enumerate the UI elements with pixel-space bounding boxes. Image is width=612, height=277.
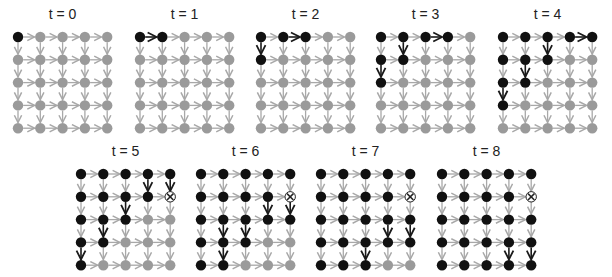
visited-node (437, 169, 447, 179)
visited-node (459, 214, 469, 224)
visited-node (481, 260, 491, 270)
visited-node (459, 260, 469, 270)
visited-node (526, 237, 536, 247)
visited-node (504, 169, 514, 179)
visited-node (504, 214, 514, 224)
visited-node (437, 214, 447, 224)
visited-node (526, 214, 536, 224)
visited-node (437, 192, 447, 202)
visited-node (437, 237, 447, 247)
visited-node (459, 237, 469, 247)
failed-node (526, 192, 536, 202)
visited-node (437, 260, 447, 270)
visited-node (459, 192, 469, 202)
visited-node (481, 192, 491, 202)
visited-node (526, 260, 536, 270)
visited-node (481, 237, 491, 247)
visited-node (526, 169, 536, 179)
visited-node (481, 169, 491, 179)
visited-node (504, 192, 514, 202)
visited-node (504, 260, 514, 270)
grid-panel (0, 0, 612, 277)
visited-node (459, 169, 469, 179)
visited-node (481, 214, 491, 224)
visited-node (504, 237, 514, 247)
